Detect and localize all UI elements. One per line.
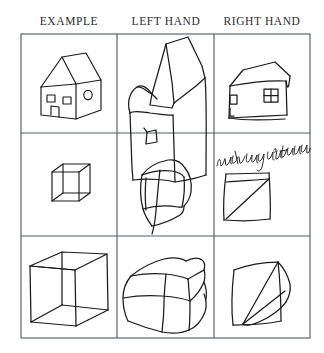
column-header-left-hand: LEFT HAND bbox=[132, 15, 201, 27]
lh-cube-left-inner bbox=[145, 178, 146, 210]
column-header-right-hand: RIGHT HAND bbox=[223, 15, 300, 27]
drawing-test-figure: EXAMPLE LEFT HAND RIGHT HAND bbox=[0, 0, 324, 353]
figure-background bbox=[0, 0, 324, 353]
figure-canvas: EXAMPLE LEFT HAND RIGHT HAND bbox=[0, 0, 324, 353]
column-header-example: EXAMPLE bbox=[40, 15, 99, 27]
